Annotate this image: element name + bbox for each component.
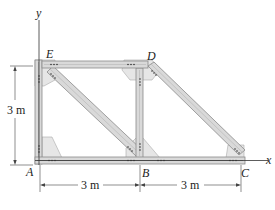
y-axis-label: y xyxy=(35,6,42,20)
dimension-height-label: 3 m xyxy=(7,103,26,117)
joint-label-c: C xyxy=(241,166,250,180)
member-ed xyxy=(42,61,148,68)
joint-label-b: B xyxy=(142,166,150,180)
joint-label-a: A xyxy=(25,165,34,179)
dimension-span-ab-label: 3 m xyxy=(81,178,100,192)
gusset-a xyxy=(42,137,62,158)
member-eb xyxy=(47,66,142,156)
joint-label-e: E xyxy=(45,47,54,61)
x-axis-label: x xyxy=(265,153,272,167)
member-dc xyxy=(148,62,245,155)
joint-label-d: D xyxy=(146,49,156,63)
truss-diagram: y x E D A B C 3 m 3 m 3 m xyxy=(0,0,275,210)
dimension-span-bc-label: 3 m xyxy=(181,178,200,192)
dimension-spans xyxy=(40,165,241,192)
